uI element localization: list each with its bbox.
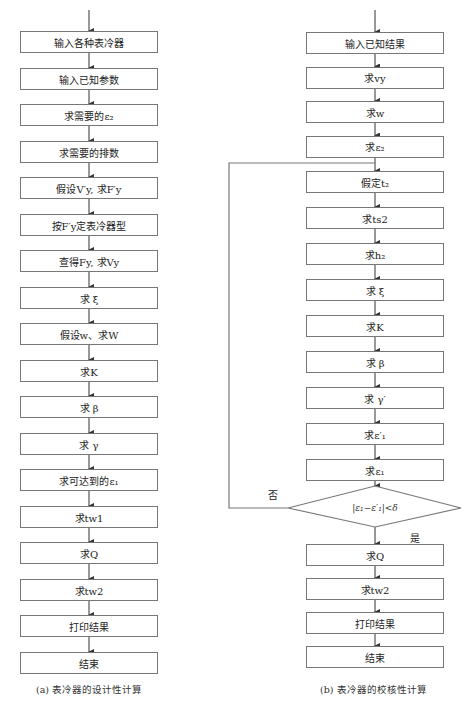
left-step-box: 求tw2	[20, 579, 158, 601]
left-step-box: 求 γ	[20, 433, 158, 455]
left-step-box-text: 求tw2	[75, 583, 104, 598]
right-step-box-text: 结束	[365, 650, 385, 665]
left-step-box-text: 求 ξ	[80, 291, 99, 306]
loop-step-box-text: 假定t₂	[361, 175, 389, 190]
loop-step-box: 求K	[306, 315, 444, 337]
left-step-box: 求Q	[20, 542, 158, 564]
left-step-box: 求K	[20, 360, 158, 382]
loop-step-box: 假定t₂	[306, 171, 444, 193]
left-step-box: 求需要的ε₂	[20, 104, 158, 126]
left-step-box-text: 求 γ	[79, 437, 98, 452]
loop-step-box-text: 求 ξ	[366, 283, 385, 298]
caption-b: (b) 表冷器的校核性计算	[320, 682, 427, 696]
loop-step-box: 求 ξ	[306, 279, 444, 301]
left-step-box: 输入已知参数	[20, 68, 158, 90]
left-step-box: 求需要的排数	[20, 141, 158, 163]
left-step-box: 打印结果	[20, 615, 158, 637]
left-step-box-text: 查得Fy, 求Vy	[59, 254, 119, 269]
loop-step-box-text: 求h₂	[365, 247, 385, 262]
loop-step-box-text: 求 β	[366, 355, 385, 370]
left-step-box: 结束	[20, 652, 158, 674]
decision-yes-label: 是	[410, 530, 420, 545]
right-step-box: 求ε₂	[306, 136, 444, 158]
right-step-box: 结束	[306, 646, 444, 668]
loop-step-box: 求h₂	[306, 243, 444, 265]
left-step-box-text: 结束	[79, 656, 99, 671]
left-step-box-text: 求K	[80, 364, 97, 379]
right-step-box-text: 打印结果	[355, 616, 395, 631]
right-step-box: 求vy	[306, 67, 444, 89]
left-step-box: 求 β	[20, 396, 158, 418]
right-step-box-text: 求ε₂	[365, 139, 384, 154]
loop-step-box-text: 求ε′₁	[364, 427, 385, 442]
left-step-box-text: 输入已知参数	[59, 72, 119, 87]
left-step-box-text: 打印结果	[69, 619, 109, 634]
left-step-box: 假设V′y, 求F′y	[20, 177, 158, 199]
right-step-box-text: 求vy	[364, 70, 385, 85]
loop-step-box: 求ts2	[306, 207, 444, 229]
caption-a: (a) 表冷器的设计性计算	[36, 682, 142, 696]
loop-step-box-text: 求ts2	[362, 211, 388, 226]
loop-step-box-text: 求K	[366, 319, 383, 334]
left-step-box-text: 按F′y定表冷器型	[52, 218, 127, 233]
right-step-box-text: 求w	[366, 105, 385, 120]
left-step-box: 求 ξ	[20, 287, 158, 309]
left-step-box: 假设w、求W	[20, 323, 158, 345]
left-step-box-text: 求Q	[80, 546, 98, 561]
right-step-box: 打印结果	[306, 612, 444, 634]
loop-step-box-text: 求 γ′	[364, 391, 385, 406]
right-step-box: 求w	[306, 101, 444, 123]
right-step-box-text: 求tw2	[361, 582, 390, 597]
right-step-box: 输入已知结果	[306, 32, 444, 54]
decision-no-label: 否	[268, 487, 278, 502]
left-step-box: 按F′y定表冷器型	[20, 214, 158, 236]
left-step-box: 输入各种表冷器	[20, 31, 158, 53]
loop-step-box: 求 γ′	[306, 387, 444, 409]
left-step-box-text: 求可达到的ε₁	[59, 473, 118, 488]
left-step-box: 求tw1	[20, 506, 158, 528]
right-step-box-text: 求Q	[366, 548, 384, 563]
left-step-box-text: 输入各种表冷器	[54, 35, 124, 50]
decision-condition: |ε₁−ε′₁|<δ	[352, 503, 397, 513]
loop-step-box: 求 β	[306, 351, 444, 373]
loop-step-box: 求ε₁	[306, 459, 444, 481]
left-step-box: 求可达到的ε₁	[20, 469, 158, 491]
right-step-box: 求Q	[306, 544, 444, 566]
left-step-box-text: 假设V′y, 求F′y	[56, 181, 121, 196]
left-step-box-text: 求 β	[80, 400, 99, 415]
left-step-box: 查得Fy, 求Vy	[20, 250, 158, 272]
loop-step-box: 求ε′₁	[306, 423, 444, 445]
right-step-box: 求tw2	[306, 578, 444, 600]
left-step-box-text: 假设w、求W	[60, 327, 119, 342]
left-step-box-text: 求需要的ε₂	[64, 108, 113, 123]
left-step-box-text: 求需要的排数	[59, 145, 119, 160]
left-step-box-text: 求tw1	[75, 510, 104, 525]
right-step-box-text: 输入已知结果	[345, 36, 405, 51]
loop-step-box-text: 求ε₁	[365, 463, 384, 478]
